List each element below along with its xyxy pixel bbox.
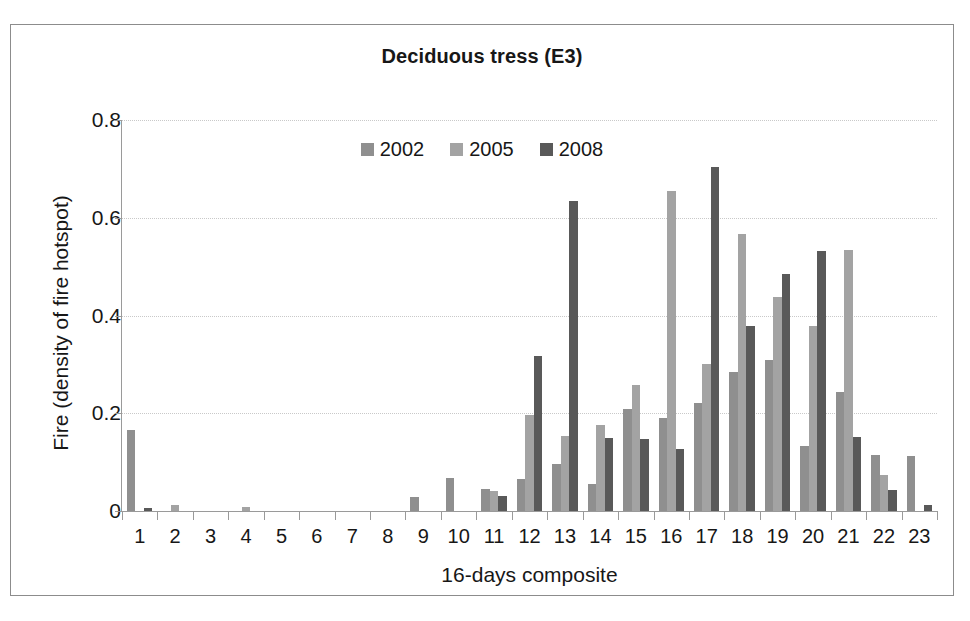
bar-2002-10[interactable]	[446, 478, 455, 511]
y-axis-tick-label: 0.6	[63, 206, 121, 230]
x-axis-tick-label: 3	[193, 525, 228, 548]
x-axis-tickmark	[228, 511, 229, 520]
bar-2002-18[interactable]	[729, 372, 738, 511]
x-axis-tick-label: 19	[760, 525, 795, 548]
bar-2008-22[interactable]	[888, 490, 897, 512]
bar-group[interactable]	[264, 120, 299, 511]
bar-group[interactable]	[760, 120, 795, 511]
bar-2005-22[interactable]	[880, 475, 889, 511]
x-axis-tickmark	[299, 511, 300, 520]
x-axis-tickmarks	[122, 511, 937, 520]
x-axis-tick-label: 8	[370, 525, 405, 548]
bar-2008-14[interactable]	[605, 438, 614, 511]
x-axis-tick-label: 13	[547, 525, 582, 548]
bar-2005-11[interactable]	[490, 491, 499, 511]
x-axis-tickmark	[264, 511, 265, 520]
x-axis-tick-label: 4	[228, 525, 263, 548]
bar-2008-12[interactable]	[534, 356, 543, 511]
bar-2008-20[interactable]	[817, 251, 826, 511]
bar-2005-15[interactable]	[632, 385, 641, 511]
x-axis-tick-label: 12	[512, 525, 547, 548]
x-axis-tickmark	[866, 511, 867, 520]
bar-group[interactable]	[299, 120, 334, 511]
bar-group[interactable]	[193, 120, 228, 511]
bar-group[interactable]	[441, 120, 476, 511]
bar-group[interactable]	[157, 120, 192, 511]
bar-2002-9[interactable]	[410, 497, 419, 511]
bar-group[interactable]	[583, 120, 618, 511]
bar-2002-20[interactable]	[800, 446, 809, 511]
y-axis-tickmark	[115, 120, 122, 121]
bar-group[interactable]	[866, 120, 901, 511]
bar-2002-19[interactable]	[765, 360, 774, 511]
bar-2005-19[interactable]	[773, 297, 782, 511]
bar-2008-19[interactable]	[782, 274, 791, 511]
bar-group[interactable]	[512, 120, 547, 511]
x-axis-tick-label: 6	[299, 525, 334, 548]
x-axis-tick-label: 5	[264, 525, 299, 548]
x-axis-tickmark	[157, 511, 158, 520]
bar-2005-18[interactable]	[738, 234, 747, 511]
bar-2002-11[interactable]	[481, 489, 490, 511]
x-axis-tick-label: 7	[335, 525, 370, 548]
x-axis-tickmark	[760, 511, 761, 520]
x-axis-tick-labels: 1234567891011121314151617181920212223	[122, 525, 937, 548]
bar-2005-14[interactable]	[596, 425, 605, 511]
chart-title: Deciduous tress (E3)	[11, 45, 953, 68]
bar-groups	[122, 120, 937, 511]
bar-group[interactable]	[370, 120, 405, 511]
bar-group[interactable]	[406, 120, 441, 511]
bar-2005-17[interactable]	[702, 364, 711, 511]
bar-group[interactable]	[122, 120, 157, 511]
x-axis-tick-label: 9	[406, 525, 441, 548]
bar-group[interactable]	[654, 120, 689, 511]
y-axis-tickmark	[115, 511, 122, 512]
bar-2005-16[interactable]	[667, 191, 676, 511]
bar-2005-13[interactable]	[561, 436, 570, 511]
x-axis-tick-label: 20	[795, 525, 830, 548]
bar-2008-21[interactable]	[853, 437, 862, 511]
bar-group[interactable]	[547, 120, 582, 511]
x-axis-tickmark	[689, 511, 690, 520]
bar-2008-15[interactable]	[640, 439, 649, 511]
x-axis-tickmark	[405, 511, 406, 520]
x-axis-tick-label: 22	[866, 525, 901, 548]
bar-2005-20[interactable]	[809, 326, 818, 511]
bar-group[interactable]	[795, 120, 830, 511]
x-axis-tick-label: 14	[583, 525, 618, 548]
x-axis-tick-label: 16	[654, 525, 689, 548]
bar-2008-11[interactable]	[498, 496, 507, 511]
x-axis-tickmark	[937, 511, 938, 520]
bar-group[interactable]	[618, 120, 653, 511]
bar-2008-17[interactable]	[711, 167, 720, 511]
bar-2002-1[interactable]	[127, 430, 136, 511]
bar-2005-21[interactable]	[844, 250, 853, 511]
bar-group[interactable]	[476, 120, 511, 511]
bar-2008-16[interactable]	[676, 449, 685, 511]
x-axis-tickmark	[724, 511, 725, 520]
x-axis-tickmark	[583, 511, 584, 520]
bar-2002-14[interactable]	[588, 484, 597, 511]
bar-2002-23[interactable]	[907, 456, 916, 511]
bar-group[interactable]	[902, 120, 937, 511]
bar-2005-12[interactable]	[525, 415, 534, 511]
chart-figure: Deciduous tress (E3) Fire (density of fi…	[10, 24, 954, 596]
bar-2002-21[interactable]	[836, 392, 845, 511]
bar-2002-13[interactable]	[552, 464, 561, 511]
bar-group[interactable]	[831, 120, 866, 511]
bar-2002-17[interactable]	[694, 403, 703, 512]
bar-2002-12[interactable]	[517, 479, 526, 511]
bar-group[interactable]	[228, 120, 263, 511]
bar-2008-13[interactable]	[569, 201, 578, 511]
y-axis-tick-label: 0.4	[63, 304, 121, 328]
bar-2002-16[interactable]	[659, 418, 668, 511]
bar-2008-18[interactable]	[746, 326, 755, 511]
plot-area: 1234567891011121314151617181920212223 16…	[121, 120, 937, 512]
bar-group[interactable]	[689, 120, 724, 511]
bar-2002-15[interactable]	[623, 409, 632, 511]
bar-2002-22[interactable]	[871, 455, 880, 511]
x-axis-tick-label: 21	[831, 525, 866, 548]
y-axis-tickmark	[115, 218, 122, 219]
bar-group[interactable]	[335, 120, 370, 511]
bar-group[interactable]	[724, 120, 759, 511]
